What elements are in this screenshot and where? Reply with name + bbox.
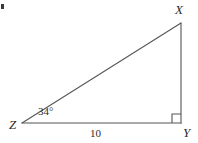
angle-measure-label-z: 34° [38,106,53,117]
vertex-label-x: X [175,3,183,16]
side-length-label-base: 10 [90,128,101,139]
right-angle-marker-icon [172,114,181,123]
vertex-label-y: Y [183,126,190,139]
triangle-figure [0,0,198,143]
vertex-label-z: Z [9,118,16,131]
diagram-canvas: X Y Z 34° 10 [0,0,198,143]
